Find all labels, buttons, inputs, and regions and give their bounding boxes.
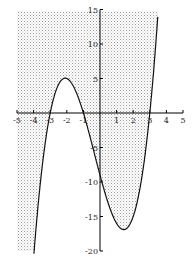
y-tick-label: -20 <box>85 247 98 256</box>
chart: -5-4-3-2-11234515105-5-10-15-20 <box>0 0 192 265</box>
x-tick-label: 5 <box>180 116 185 125</box>
y-tick-label: -10 <box>85 178 98 187</box>
x-tick-label: -5 <box>13 116 21 125</box>
x-tick-label: -3 <box>46 116 54 125</box>
y-tick-label: 10 <box>88 40 98 49</box>
x-tick-label: 4 <box>164 116 169 125</box>
x-tick-label: 2 <box>131 116 136 125</box>
x-tick-label: 1 <box>114 116 119 125</box>
x-tick-label: -4 <box>30 116 38 125</box>
y-tick-label: 15 <box>88 6 98 15</box>
y-tick-label: 5 <box>93 75 98 84</box>
x-tick-label: -2 <box>63 116 71 125</box>
y-tick-label: -15 <box>85 213 98 222</box>
